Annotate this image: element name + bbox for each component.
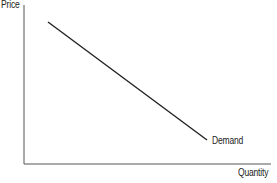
y-axis-label: Price — [1, 0, 20, 10]
demand-curve — [48, 22, 207, 140]
demand-diagram — [0, 0, 277, 183]
x-axis-label: Quantity — [238, 167, 268, 178]
demand-label: Demand — [212, 135, 243, 146]
